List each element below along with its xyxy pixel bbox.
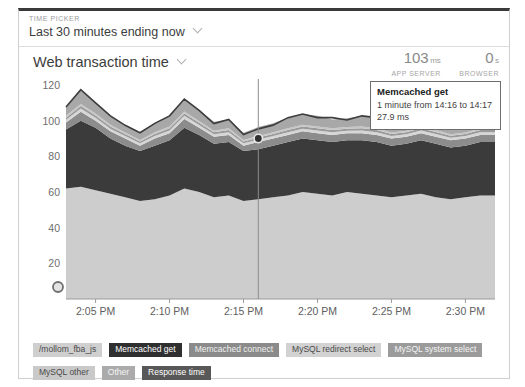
chart-plot-area[interactable]: 204060801001202:05 PM2:10 PM2:15 PM2:20 …: [25, 77, 501, 332]
page-title: Web transaction time: [33, 54, 169, 70]
legend-row: /mollom_fba_jsMemcached getMemcached con…: [33, 338, 509, 357]
chevron-down-icon[interactable]: [194, 25, 203, 34]
legend-item[interactable]: Response time: [142, 366, 211, 381]
x-axis-tick-label: 2:15 PM: [224, 305, 263, 317]
chart-header: Web transaction time 103ms APP SERVER 0s…: [19, 47, 509, 77]
web-transaction-time-widget: TIME PICKER Last 30 minutes ending now W…: [18, 8, 510, 379]
x-axis-tick-label: 2:25 PM: [372, 305, 411, 317]
metric-app-server-value: 103: [404, 49, 429, 66]
legend-item[interactable]: MySQL other: [33, 366, 95, 381]
legend-item[interactable]: Memcached connect: [189, 343, 279, 358]
metrics-group: 103ms APP SERVER 0s BROWSER: [377, 50, 499, 77]
legend-item[interactable]: MySQL system select: [388, 343, 482, 358]
time-picker[interactable]: TIME PICKER Last 30 minutes ending now: [19, 11, 509, 47]
x-axis-tick-label: 2:20 PM: [298, 305, 337, 317]
y-axis-tick-label: 60: [48, 186, 60, 198]
tooltip-value: 27.9 ms: [377, 111, 494, 124]
chart-tooltip: Memcached get 1 minute from 14:16 to 14:…: [370, 81, 501, 130]
metric-browser-value: 0: [485, 49, 493, 66]
chevron-down-icon[interactable]: [178, 56, 187, 65]
range-handle[interactable]: [53, 282, 63, 292]
metric-app-server: 103ms APP SERVER: [391, 50, 441, 77]
y-axis-tick-label: 40: [48, 222, 60, 234]
y-axis-tick-label: 100: [42, 115, 60, 127]
legend-item[interactable]: /mollom_fba_js: [33, 343, 102, 358]
legend-row: MySQL otherOtherResponse time: [33, 361, 509, 380]
y-axis-tick-label: 120: [42, 79, 60, 91]
legend-item[interactable]: Other: [102, 366, 135, 381]
x-axis-tick-label: 2:05 PM: [76, 305, 115, 317]
tooltip-title: Memcached get: [377, 86, 494, 99]
x-axis-tick-label: 2:30 PM: [446, 305, 485, 317]
metric-app-server-unit: ms: [430, 56, 441, 65]
time-picker-value[interactable]: Last 30 minutes ending now: [29, 25, 185, 39]
metric-browser: 0s BROWSER: [459, 50, 499, 77]
metric-app-server-label: APP SERVER: [391, 70, 441, 77]
legend-item[interactable]: Memcached get: [109, 343, 181, 358]
legend-item[interactable]: MySQL redirect select: [286, 343, 381, 358]
metric-browser-unit: s: [495, 56, 499, 65]
area-series-0: [66, 187, 495, 299]
tooltip-range: 1 minute from 14:16 to 14:17: [377, 99, 494, 112]
metric-browser-label: BROWSER: [459, 70, 499, 77]
y-axis-tick-label: 80: [48, 150, 60, 162]
crosshair-marker[interactable]: [254, 134, 262, 142]
x-axis-tick-label: 2:10 PM: [150, 305, 189, 317]
time-picker-label: TIME PICKER: [29, 15, 509, 22]
y-axis-tick-label: 20: [48, 257, 60, 269]
chart-legend: /mollom_fba_jsMemcached getMemcached con…: [19, 332, 509, 380]
